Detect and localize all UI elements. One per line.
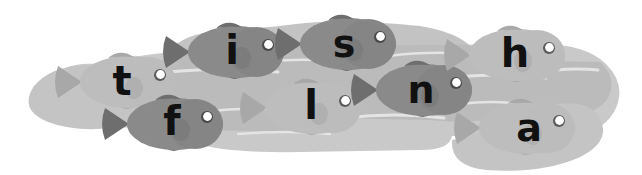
- fish-pond-illustration: tisflnha: [0, 0, 642, 175]
- fish-t-letter: t: [112, 58, 131, 104]
- fish-a-letter: a: [516, 106, 542, 150]
- fish-s-letter: s: [333, 22, 356, 66]
- scene-canvas: tisflnha: [0, 0, 642, 175]
- fish-h-letter: h: [501, 30, 529, 76]
- fish-i-letter: i: [225, 27, 239, 73]
- fish-n-letter: n: [407, 68, 434, 112]
- fish-f-letter: f: [163, 98, 181, 144]
- fish-l-letter: l: [304, 82, 318, 128]
